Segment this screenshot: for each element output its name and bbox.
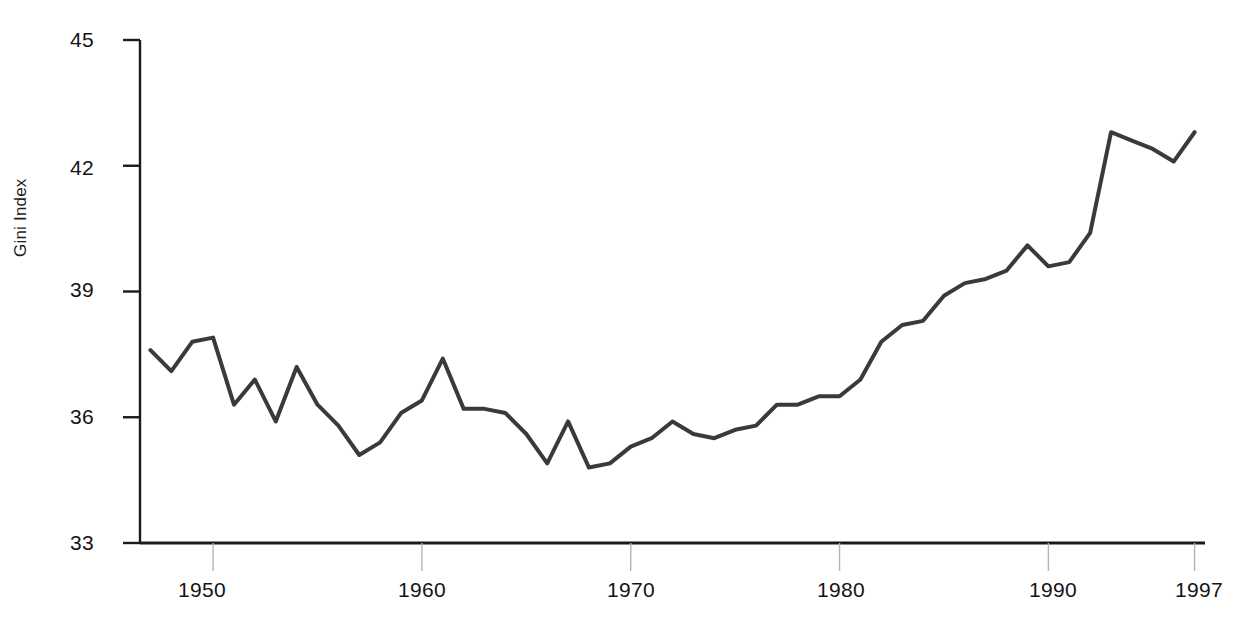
- plot-area: [0, 0, 1236, 642]
- x-axis-ticks: [213, 543, 1194, 571]
- gini-index-line-chart: Gini Index 45 42 39 36 33 1950 1960 1970…: [0, 0, 1236, 642]
- y-axis-ticks: [123, 40, 140, 543]
- gini-index-series-line: [150, 132, 1194, 467]
- axis-lines: [140, 40, 1205, 543]
